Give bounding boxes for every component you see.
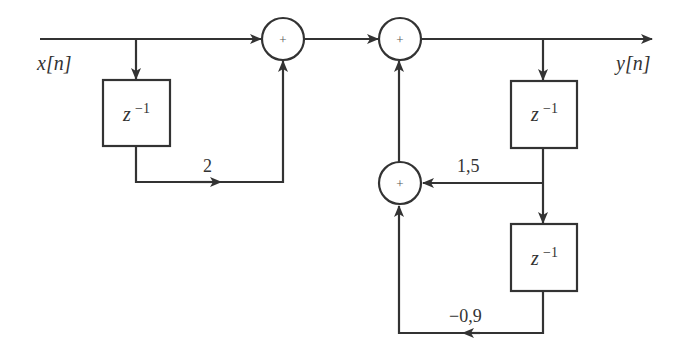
delay-1: z −1 bbox=[103, 80, 170, 146]
plus-icon: + bbox=[396, 32, 403, 47]
output-label: y[n] bbox=[614, 52, 650, 75]
block-diagram: + + + z −1 z −1 z −1 x[n] y[n] 2 1,5 −0,… bbox=[0, 0, 686, 351]
adder-3: + bbox=[379, 162, 421, 204]
delay-2-exponent: −1 bbox=[543, 101, 558, 116]
input-label: x[n] bbox=[36, 52, 71, 74]
gain-2-label: 2 bbox=[203, 156, 212, 176]
gain-1-5-label: 1,5 bbox=[457, 156, 480, 176]
delay-2-label: z bbox=[530, 103, 539, 125]
gain-neg-0-9-label: −0,9 bbox=[449, 306, 482, 326]
delay-1-label: z bbox=[122, 103, 131, 125]
delay-3-exponent: −1 bbox=[543, 245, 558, 260]
delay-3-label: z bbox=[530, 247, 539, 269]
adder-1: + bbox=[262, 18, 304, 60]
delay-2: z −1 bbox=[511, 81, 577, 148]
plus-icon: + bbox=[279, 32, 286, 47]
adder-2: + bbox=[379, 18, 421, 60]
plus-icon: + bbox=[396, 176, 403, 191]
delay-3: z −1 bbox=[511, 224, 577, 291]
delay-1-exponent: −1 bbox=[135, 101, 150, 116]
